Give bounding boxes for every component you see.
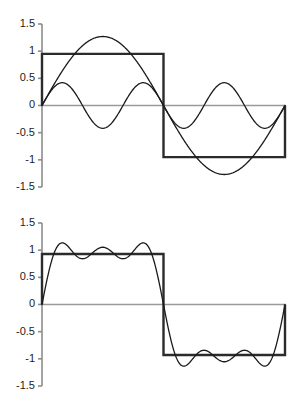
y-tick-label: 1.5 bbox=[20, 216, 35, 228]
chart-panel-bottom: 1.510.50-0.5-1-1.5 bbox=[0, 199, 304, 397]
y-tick-label: -1 bbox=[25, 352, 35, 364]
fourier-square-wave-figure: 1.510.50-0.5-1-1.5 1.510.50-0.5-1-1.5 bbox=[0, 0, 304, 397]
bottom-plot-canvas: 1.510.50-0.5-1-1.5 bbox=[0, 199, 304, 397]
y-tick-label: 0.5 bbox=[20, 270, 35, 282]
y-tick-label: -0.5 bbox=[16, 325, 35, 337]
chart-panel-top: 1.510.50-0.5-1-1.5 bbox=[0, 0, 304, 198]
y-tick-label: -1.5 bbox=[16, 180, 35, 192]
y-tick-label: 0.5 bbox=[20, 71, 35, 83]
y-tick-label: 0 bbox=[29, 297, 35, 309]
y-tick-label: 1 bbox=[29, 243, 35, 255]
y-tick-label: 0 bbox=[29, 98, 35, 110]
y-tick-label: 1.5 bbox=[20, 17, 35, 29]
y-tick-label: -1.5 bbox=[16, 379, 35, 391]
y-tick-label: 1 bbox=[29, 44, 35, 56]
y-tick-label: -1 bbox=[25, 153, 35, 165]
y-tick-label: -0.5 bbox=[16, 126, 35, 138]
top-plot-canvas: 1.510.50-0.5-1-1.5 bbox=[0, 0, 304, 198]
